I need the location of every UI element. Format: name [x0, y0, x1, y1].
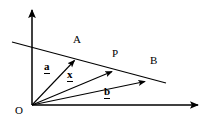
- vector-diagram-canvas: [0, 0, 213, 131]
- vector-b-arrow: [32, 82, 145, 106]
- vector-diagram-figure: A P B O a x b: [0, 0, 213, 131]
- vector-label-b: b: [104, 86, 110, 99]
- line-AB: [12, 42, 166, 83]
- point-label-B: B: [150, 55, 157, 66]
- point-label-A: A: [73, 34, 81, 45]
- vector-label-a: a: [44, 61, 50, 74]
- point-label-P: P: [112, 48, 118, 59]
- vector-label-x: x: [67, 69, 73, 82]
- origin-label-O: O: [15, 105, 23, 116]
